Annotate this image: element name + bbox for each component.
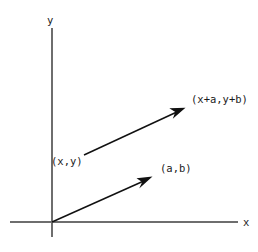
vector-label-sum: (x+a,y+b)	[191, 93, 248, 105]
vector-sum	[84, 108, 186, 155]
x-axis-label: x	[243, 216, 249, 228]
vector-label-ab: (a,b)	[160, 162, 192, 174]
vector-sum-arrowhead	[169, 108, 185, 119]
y-axis-label: y	[47, 14, 53, 26]
vector-sum-shaft	[84, 111, 179, 155]
vector-ab	[52, 177, 153, 222]
vector-addition-figure: y x (x,y) (a,b) (x+a,y+b)	[0, 0, 258, 252]
point-label-xy: (x,y)	[51, 155, 83, 167]
vector-ab-shaft	[52, 180, 146, 222]
figure-canvas	[0, 0, 258, 252]
